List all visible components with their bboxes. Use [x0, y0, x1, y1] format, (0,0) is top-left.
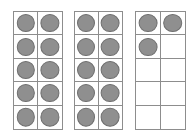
frame-cell[interactable]	[14, 59, 38, 82]
counter-circle	[101, 61, 120, 79]
frame-cell[interactable]	[14, 35, 38, 58]
counter-circle	[40, 38, 59, 56]
ten-frame-1[interactable]	[13, 11, 63, 130]
ten-frame-3[interactable]	[135, 11, 186, 130]
ten-frame-2[interactable]	[74, 11, 123, 130]
frame-cell[interactable]	[99, 35, 123, 58]
counter-circle	[16, 108, 34, 127]
frame-cell[interactable]	[14, 82, 38, 105]
frame-cell[interactable]	[161, 35, 186, 58]
counter-circle	[77, 14, 95, 32]
frame-cell[interactable]	[161, 82, 186, 105]
ten-frames-canvas	[0, 0, 194, 135]
frame-cell[interactable]	[75, 12, 99, 35]
counter-circle	[138, 14, 157, 32]
frame-cell[interactable]	[75, 82, 99, 105]
frame-cell[interactable]	[136, 12, 161, 35]
frame-cell[interactable]	[38, 35, 62, 58]
counter-circle	[77, 108, 95, 127]
counter-circle	[16, 61, 34, 79]
frame-cell[interactable]	[161, 59, 186, 82]
counter-circle	[138, 38, 157, 56]
counter-circle	[77, 61, 95, 79]
frame-cell[interactable]	[75, 35, 99, 58]
frame-cell[interactable]	[136, 106, 161, 129]
frame-cell[interactable]	[38, 82, 62, 105]
counter-circle	[16, 84, 34, 102]
counter-circle	[40, 61, 59, 79]
frame-cell[interactable]	[75, 59, 99, 82]
frame-cell[interactable]	[99, 82, 123, 105]
frame-cell[interactable]	[14, 106, 38, 129]
frame-cell[interactable]	[99, 106, 123, 129]
counter-circle	[101, 108, 120, 127]
counter-circle	[77, 38, 95, 56]
counter-circle	[163, 14, 183, 32]
counter-circle	[16, 14, 34, 32]
counter-circle	[77, 84, 95, 102]
frame-cell[interactable]	[161, 106, 186, 129]
frame-cell[interactable]	[136, 82, 161, 105]
counter-circle	[40, 14, 59, 32]
frame-cell[interactable]	[99, 12, 123, 35]
frame-cell[interactable]	[161, 12, 186, 35]
frame-cell[interactable]	[75, 106, 99, 129]
counter-circle	[101, 38, 120, 56]
counter-circle	[16, 38, 34, 56]
frame-cell[interactable]	[38, 12, 62, 35]
frame-cell[interactable]	[38, 106, 62, 129]
frame-cell[interactable]	[14, 12, 38, 35]
frame-cell[interactable]	[136, 35, 161, 58]
counter-circle	[40, 84, 59, 102]
counter-circle	[101, 14, 120, 32]
frame-cell[interactable]	[38, 59, 62, 82]
frame-cell[interactable]	[99, 59, 123, 82]
frame-cell[interactable]	[136, 59, 161, 82]
counter-circle	[101, 84, 120, 102]
counter-circle	[40, 108, 59, 127]
